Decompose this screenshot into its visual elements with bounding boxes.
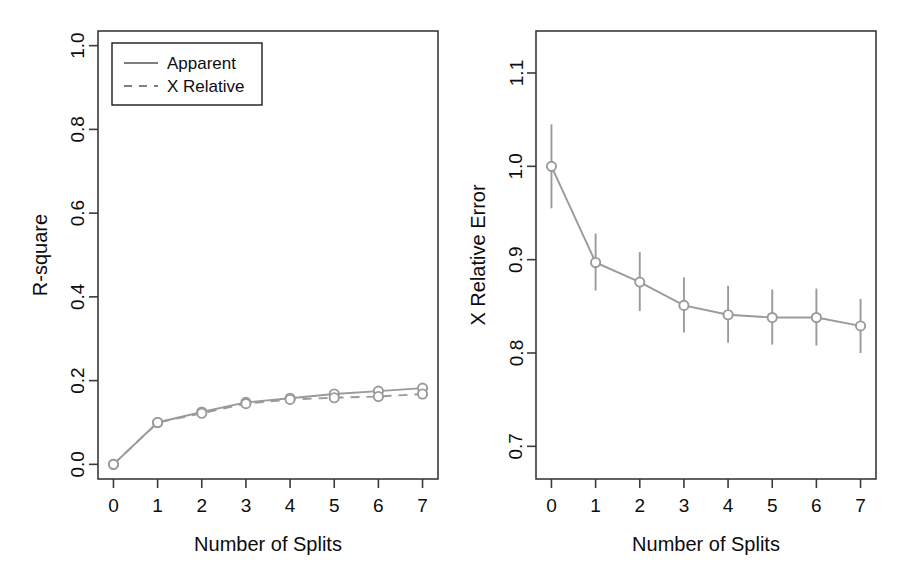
data-point-marker bbox=[723, 310, 732, 319]
series-line-solid bbox=[551, 166, 860, 326]
x-tick-label: 2 bbox=[634, 495, 645, 516]
x-tick-label: 1 bbox=[590, 495, 601, 516]
x-tick-label: 5 bbox=[767, 495, 778, 516]
plot-frame bbox=[536, 31, 876, 479]
data-point-marker bbox=[679, 301, 688, 310]
y-tick-label: 0.8 bbox=[506, 340, 527, 366]
panel-x-relative-error: 012345670.70.80.91.01.1Number of SplitsX… bbox=[0, 0, 901, 573]
data-point-marker bbox=[547, 162, 556, 171]
data-point-marker bbox=[635, 277, 644, 286]
x-tick-label: 7 bbox=[855, 495, 866, 516]
data-point-marker bbox=[856, 321, 865, 330]
x-tick-label: 0 bbox=[546, 495, 557, 516]
y-tick-label: 0.9 bbox=[506, 246, 527, 272]
figure-canvas: 012345670.00.20.40.60.81.0Number of Spli… bbox=[0, 0, 901, 573]
x-tick-label: 4 bbox=[723, 495, 734, 516]
y-tick-label: 1.1 bbox=[506, 60, 527, 86]
x-relative-error-chart: 012345670.70.80.91.01.1Number of SplitsX… bbox=[0, 0, 901, 573]
x-axis-label: Number of Splits bbox=[632, 533, 780, 555]
y-tick-label: 1.0 bbox=[506, 153, 527, 179]
x-tick-label: 6 bbox=[811, 495, 822, 516]
y-tick-label: 0.7 bbox=[506, 433, 527, 459]
x-tick-label: 3 bbox=[679, 495, 690, 516]
data-point-marker bbox=[812, 313, 821, 322]
y-axis-label: X Relative Error bbox=[467, 184, 489, 325]
data-point-marker bbox=[768, 313, 777, 322]
data-point-marker bbox=[591, 258, 600, 267]
